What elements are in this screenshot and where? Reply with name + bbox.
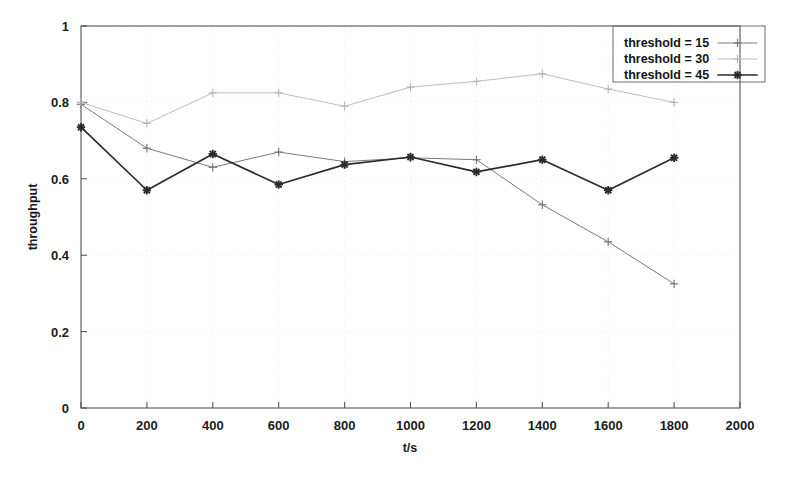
- legend-label-2: threshold = 30: [624, 52, 709, 66]
- data-point-marker-star: [538, 156, 546, 164]
- data-point-marker-star: [209, 150, 217, 158]
- series-1: [77, 100, 679, 288]
- y-tick-label: 0: [62, 401, 69, 416]
- x-tick-label: 2000: [726, 418, 755, 433]
- x-tick-label: 800: [334, 418, 356, 433]
- data-series-group: [77, 70, 679, 288]
- x-tick-label: 1200: [462, 418, 491, 433]
- y-tick-label: 0.2: [51, 325, 69, 340]
- legend-items-group: threshold = 15threshold = 30threshold = …: [624, 36, 757, 82]
- data-point-marker-plus: [275, 89, 283, 97]
- throughput-vs-time-line-chart: 0200400600800100012001400160018002000 00…: [0, 0, 789, 479]
- data-point-marker-plus: [406, 83, 414, 91]
- data-point-marker-plus: [604, 85, 612, 93]
- data-point-marker-plus: [670, 280, 678, 288]
- x-tick-label: 600: [268, 418, 290, 433]
- y-tick-labels-group: 00.20.40.60.81: [51, 19, 70, 416]
- data-point-marker-plus: [209, 89, 217, 97]
- data-point-marker-star: [670, 154, 678, 162]
- data-point-marker-star: [143, 186, 151, 194]
- y-tick-label: 1: [62, 19, 69, 34]
- x-tick-labels-group: 0200400600800100012001400160018002000: [77, 418, 754, 433]
- data-point-marker-plus: [340, 102, 348, 110]
- series-3: [77, 123, 679, 194]
- y-tick-label: 0.8: [51, 95, 69, 110]
- data-point-marker-star: [733, 71, 741, 79]
- y-tick-label: 0.6: [51, 172, 69, 187]
- series-line: [81, 74, 674, 124]
- x-tick-label: 1000: [396, 418, 425, 433]
- data-point-marker-plus: [538, 70, 546, 78]
- data-point-marker-plus: [77, 98, 85, 106]
- data-point-marker-star: [472, 168, 480, 176]
- chart-legend: threshold = 15threshold = 30threshold = …: [613, 26, 765, 82]
- legend-label-3: threshold = 45: [624, 68, 709, 82]
- data-point-marker-star: [275, 180, 283, 188]
- data-point-marker-plus: [670, 98, 678, 106]
- x-tick-label: 1800: [660, 418, 689, 433]
- x-tick-label: 0: [77, 418, 84, 433]
- data-point-marker-plus: [604, 238, 612, 246]
- x-tick-label: 200: [136, 418, 158, 433]
- data-point-marker-star: [77, 123, 85, 131]
- x-tick-label: 1400: [528, 418, 557, 433]
- x-axis-title: t/s: [403, 441, 418, 455]
- series-2: [77, 70, 679, 128]
- y-tick-label: 0.4: [51, 248, 70, 263]
- y-axis-title: throughput: [26, 183, 40, 250]
- data-point-marker-plus: [472, 77, 480, 85]
- x-tick-label: 1600: [594, 418, 623, 433]
- data-point-marker-star: [406, 153, 414, 161]
- data-point-marker-plus: [143, 119, 151, 127]
- x-tick-label: 400: [202, 418, 224, 433]
- data-point-marker-plus: [472, 156, 480, 164]
- chart-figure: 0200400600800100012001400160018002000 00…: [0, 0, 789, 479]
- series-line: [81, 104, 674, 284]
- data-point-marker-plus: [143, 144, 151, 152]
- data-point-marker-plus: [209, 163, 217, 171]
- data-point-marker-star: [604, 186, 612, 194]
- data-point-marker-plus: [275, 148, 283, 156]
- legend-label-1: threshold = 15: [624, 36, 709, 50]
- data-point-marker-plus: [538, 201, 546, 209]
- data-point-marker-star: [340, 160, 348, 168]
- series-line: [81, 127, 674, 190]
